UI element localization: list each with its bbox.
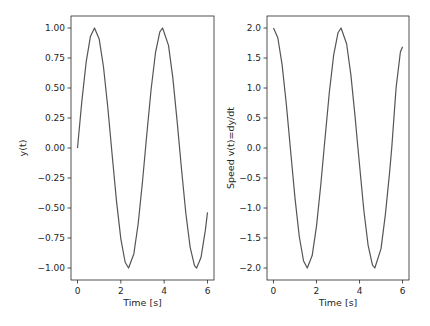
y-tick-label: 0.0 <box>247 143 262 153</box>
y-tick-label: 1.0 <box>247 83 262 93</box>
plot-speed: 2.01.51.00.50.0−0.5−1.0−1.5−2.0 0246 Tim… <box>225 16 409 308</box>
y-tick-label: −1.00 <box>37 263 65 273</box>
y-tick-label: −0.5 <box>239 173 261 183</box>
x-axis-label: Time [s] <box>318 297 358 308</box>
y-tick-label: 0.75 <box>45 53 65 63</box>
y-tick-label: −0.25 <box>37 173 65 183</box>
x-tick-label: 6 <box>205 286 211 296</box>
y-tick-label: 0.25 <box>45 113 65 123</box>
y-tick-label: −0.50 <box>37 203 65 213</box>
y-tick-label: 1.00 <box>45 23 65 33</box>
y-axis-label: y(t) <box>17 140 28 157</box>
y-tick-label: −0.75 <box>37 233 65 243</box>
x-axis-ticks: 0246 <box>271 280 406 296</box>
plot-area <box>267 16 409 280</box>
x-tick-label: 2 <box>314 286 320 296</box>
x-tick-label: 4 <box>161 286 167 296</box>
x-tick-label: 0 <box>271 286 277 296</box>
plot-position: 1.000.750.500.250.00−0.25−0.50−0.75−1.00… <box>17 16 214 308</box>
y-tick-label: −1.0 <box>239 203 261 213</box>
y-tick-label: 0.00 <box>45 143 65 153</box>
y-tick-label: 0.50 <box>45 83 65 93</box>
y-tick-label: 1.5 <box>247 53 261 63</box>
x-tick-label: 6 <box>400 286 406 296</box>
x-tick-label: 2 <box>118 286 124 296</box>
y-axis-ticks: 2.01.51.00.50.0−0.5−1.0−1.5−2.0 <box>239 23 267 273</box>
y-tick-label: −2.0 <box>239 263 261 273</box>
figure: 1.000.750.500.250.00−0.25−0.50−0.75−1.00… <box>0 0 430 326</box>
x-axis-ticks: 0246 <box>75 280 211 296</box>
y-tick-label: 0.5 <box>247 113 261 123</box>
x-axis-label: Time [s] <box>122 297 162 308</box>
x-tick-label: 4 <box>357 286 363 296</box>
x-tick-label: 0 <box>75 286 81 296</box>
plot-area <box>71 16 214 280</box>
y-axis-label: Speed v(t)=dy/dt <box>225 107 236 189</box>
y-tick-label: 2.0 <box>247 23 262 33</box>
y-tick-label: −1.5 <box>239 233 261 243</box>
y-axis-ticks: 1.000.750.500.250.00−0.25−0.50−0.75−1.00 <box>37 23 71 273</box>
